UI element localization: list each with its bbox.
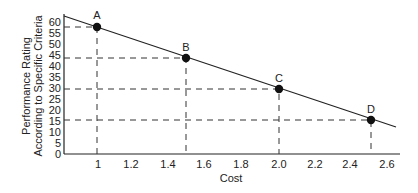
svg-text:1.8: 1.8 bbox=[233, 158, 248, 170]
svg-text:5: 5 bbox=[55, 137, 61, 149]
svg-text:55: 55 bbox=[49, 27, 61, 39]
svg-text:1.4: 1.4 bbox=[160, 158, 175, 170]
svg-text:40: 40 bbox=[49, 60, 61, 72]
svg-text:According to Specific Criteria: According to Specific Criteria bbox=[32, 15, 44, 157]
y-tick-labels: 0 5 10 15 20 25 30 35 40 45 50 55 60 bbox=[49, 16, 61, 160]
svg-text:2.6: 2.6 bbox=[379, 158, 394, 170]
svg-text:15: 15 bbox=[49, 115, 61, 127]
svg-text:2.0: 2.0 bbox=[271, 158, 286, 170]
point-d bbox=[367, 116, 375, 124]
svg-text:45: 45 bbox=[49, 49, 61, 61]
point-b bbox=[182, 54, 190, 62]
point-labels: A B C D bbox=[93, 9, 375, 115]
data-points bbox=[93, 23, 375, 124]
chart: 0 5 10 15 20 25 30 35 40 45 50 55 60 1 1… bbox=[0, 0, 418, 193]
point-c bbox=[275, 85, 283, 93]
svg-text:50: 50 bbox=[49, 38, 61, 50]
svg-text:25: 25 bbox=[49, 93, 61, 105]
x-tick-labels: 1 1.2 1.4 1.6 1.8 2.0 2.2 2.4 2.6 bbox=[95, 158, 395, 170]
svg-text:1.6: 1.6 bbox=[196, 158, 211, 170]
reference-lines bbox=[64, 27, 371, 154]
svg-text:30: 30 bbox=[49, 82, 61, 94]
point-a bbox=[93, 23, 101, 31]
x-axis-title: Cost bbox=[220, 172, 243, 184]
svg-text:10: 10 bbox=[49, 126, 61, 138]
svg-text:35: 35 bbox=[49, 71, 61, 83]
cost-performance-line bbox=[64, 16, 396, 127]
svg-text:1: 1 bbox=[95, 158, 101, 170]
svg-text:1.2: 1.2 bbox=[123, 158, 138, 170]
svg-text:C: C bbox=[275, 72, 283, 84]
svg-text:2.2: 2.2 bbox=[307, 158, 322, 170]
svg-text:B: B bbox=[182, 41, 189, 53]
svg-text:0: 0 bbox=[55, 148, 61, 160]
svg-text:2.4: 2.4 bbox=[342, 158, 357, 170]
svg-text:20: 20 bbox=[49, 104, 61, 116]
svg-text:D: D bbox=[367, 103, 375, 115]
svg-text:60: 60 bbox=[49, 16, 61, 28]
svg-text:A: A bbox=[93, 9, 101, 21]
svg-text:Performance Rating: Performance Rating bbox=[20, 37, 32, 135]
y-axis-title: Performance Rating According to Specific… bbox=[20, 15, 44, 157]
